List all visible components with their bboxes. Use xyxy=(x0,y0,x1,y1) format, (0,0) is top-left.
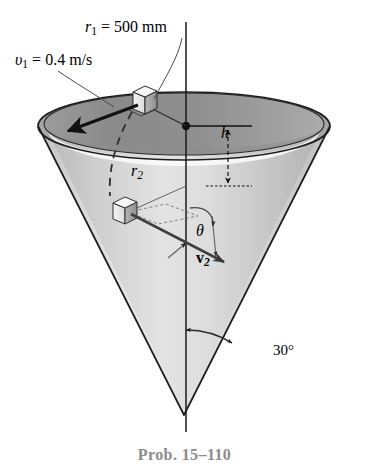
r1-leader-line xyxy=(154,38,182,99)
label-theta: θ xyxy=(196,223,204,239)
label-r2: r2 xyxy=(131,163,143,182)
label-r1: r1 = 500 mm xyxy=(85,19,167,38)
label-v2-symbol: v xyxy=(196,249,204,266)
block-2 xyxy=(113,197,137,224)
label-v1-value: = 0.4 m/s xyxy=(28,51,92,68)
label-v2-subscript: 2 xyxy=(204,256,210,268)
cone-inner-funnel xyxy=(44,124,324,412)
label-r2-subscript: 2 xyxy=(137,169,143,181)
block-1 xyxy=(133,86,157,114)
label-h: h xyxy=(221,125,229,141)
problem-figure: r1 = 500 mm υ1 = 0.4 m/s h r2 θ v2 30° P… xyxy=(0,0,369,473)
label-v1: υ1 = 0.4 m/s xyxy=(15,52,92,71)
cone-diagram-svg xyxy=(0,0,369,473)
label-apex-angle: 30° xyxy=(273,343,294,358)
cone-body xyxy=(38,92,330,415)
figure-caption: Prob. 15–110 xyxy=(0,446,369,464)
label-r1-value: = 500 mm xyxy=(97,18,167,35)
label-v2: v2 xyxy=(196,250,210,269)
